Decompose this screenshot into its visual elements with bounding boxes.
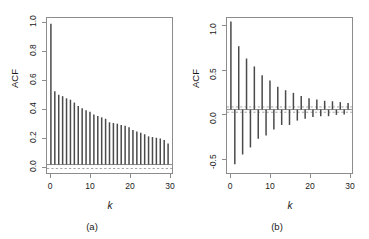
panel-b-xtick-mark-2 — [310, 174, 311, 178]
panel-a: ACF 0.0 0.2 0.4 0.6 0.8 1.0 0 10 20 30 — [0, 0, 184, 239]
panel-b-y-axis-title: ACF — [191, 69, 201, 88]
acf-figure: ACF 0.0 0.2 0.4 0.6 0.8 1.0 0 10 20 30 — [0, 0, 369, 239]
panel-b-xtick-2: 20 — [300, 182, 320, 191]
panel-a-xtick-2: 20 — [120, 182, 140, 191]
panel-b-xtick-mark-3 — [350, 174, 351, 178]
panel-b-plot-area — [226, 17, 353, 174]
panel-b-xtick-mark-1 — [270, 174, 271, 178]
panel-b-ytick-2: 0.5 — [209, 68, 218, 80]
panel-a-xtick-mark-2 — [130, 174, 131, 178]
panel-a-xtick-mark-3 — [170, 174, 171, 178]
panel-a-ytick-5: 1.0 — [29, 15, 38, 27]
panel-a-ytick-2: 0.4 — [29, 102, 38, 114]
panel-a-ytick-3: 0.6 — [29, 73, 38, 85]
panel-b-caption: (b) — [185, 222, 369, 232]
panel-b-ytick-3: 1.0 — [209, 23, 218, 35]
panel-a-acf-svg — [47, 18, 172, 173]
panel-b-x-axis-title: k — [280, 201, 300, 211]
panel-b-xtick-0: 0 — [220, 182, 240, 191]
panel-a-caption: (a) — [0, 222, 184, 232]
panel-b-xtick-mark-0 — [230, 174, 231, 178]
panel-a-xtick-mark-0 — [50, 174, 51, 178]
panel-a-plot-area — [46, 17, 173, 174]
panel-a-plot-canvas — [47, 18, 172, 173]
panel-b-xtick-1: 10 — [260, 182, 280, 191]
panel-a-y-axis-title: ACF — [10, 69, 20, 88]
panel-a-ytick-1: 0.2 — [29, 131, 38, 143]
panel-a-xtick-1: 10 — [80, 182, 100, 191]
panel-a-ytick-4: 0.8 — [29, 44, 38, 56]
panel-b-ytick-0: -0.5 — [209, 154, 218, 169]
panel-b: ACF -0.5 0.0 0.5 1.0 0 10 20 30 k (b) — [185, 0, 369, 239]
panel-b-plot-canvas — [227, 18, 352, 173]
panel-a-xtick-0: 0 — [40, 182, 60, 191]
panel-a-xtick-mark-1 — [90, 174, 91, 178]
panel-a-xtick-3: 30 — [160, 182, 180, 191]
panel-b-ytick-1: 0.0 — [209, 112, 218, 124]
panel-b-acf-svg — [227, 18, 352, 173]
panel-a-x-axis-title: k — [100, 201, 120, 211]
panel-b-xtick-3: 30 — [340, 182, 360, 191]
panel-a-ytick-0: 0.0 — [29, 160, 38, 172]
